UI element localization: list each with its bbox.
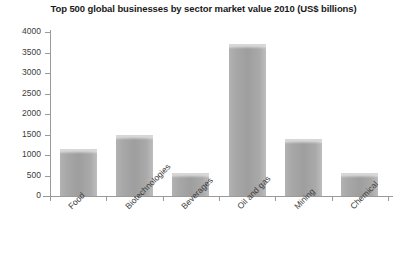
bar: [285, 139, 322, 196]
y-tick-label: 2500: [22, 88, 41, 98]
y-tick-label: 1500: [22, 129, 41, 139]
x-tick-mark: [50, 196, 51, 201]
y-tick-label: 500: [27, 170, 41, 180]
bar: [60, 149, 97, 196]
x-tick-mark: [106, 196, 107, 201]
bar: [229, 44, 266, 196]
plot-area: [50, 32, 388, 196]
y-tick-label: 3000: [22, 67, 41, 77]
y-tick-label: 2000: [22, 108, 41, 118]
bar-chart: Top 500 global businesses by sector mark…: [0, 0, 407, 267]
y-tick-label: 0: [36, 190, 41, 200]
x-axis-line: [43, 196, 393, 197]
x-tick-mark: [163, 196, 164, 201]
x-tick-mark: [388, 196, 389, 201]
y-tick-label: 3500: [22, 47, 41, 57]
x-tick-mark: [275, 196, 276, 201]
x-tick-mark: [219, 196, 220, 201]
chart-title: Top 500 global businesses by sector mark…: [0, 3, 407, 14]
y-tick-label: 4000: [22, 26, 41, 36]
y-tick-label: 1000: [22, 149, 41, 159]
x-tick-mark: [332, 196, 333, 201]
